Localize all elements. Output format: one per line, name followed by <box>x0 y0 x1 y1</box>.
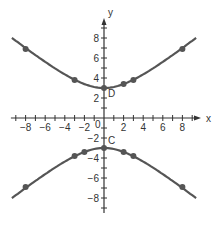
data-point <box>72 77 78 83</box>
data-point <box>179 184 185 190</box>
x-tick-label: 4 <box>140 122 146 133</box>
data-point <box>101 145 107 151</box>
y-axis-arrow-icon <box>102 18 107 25</box>
data-point <box>81 149 87 155</box>
x-tick-label: −6 <box>39 122 51 133</box>
y-tick-label: 8 <box>93 33 99 44</box>
hyperbola-chart: −8−6−4−22468−8−6−4−224680xyDC <box>0 0 219 225</box>
data-point <box>23 184 29 190</box>
x-tick-label: 2 <box>121 122 127 133</box>
point-label-c: C <box>108 135 115 146</box>
data-point <box>23 46 29 52</box>
y-tick-label: 6 <box>93 53 99 64</box>
x-tick-label: 8 <box>180 122 186 133</box>
y-tick-label: 2 <box>93 93 99 104</box>
y-axis-label: y <box>108 7 113 18</box>
y-tick-label: −8 <box>88 193 100 204</box>
x-tick-label: 6 <box>160 122 166 133</box>
x-tick-label: −8 <box>20 122 32 133</box>
data-point <box>130 153 136 159</box>
data-point <box>72 153 78 159</box>
y-tick-label: 4 <box>93 73 99 84</box>
y-tick-label: −4 <box>88 153 100 164</box>
data-point <box>101 85 107 91</box>
x-tick-label: −4 <box>59 122 71 133</box>
data-point <box>130 77 136 83</box>
y-tick-label: −2 <box>88 133 100 144</box>
axes <box>11 18 201 213</box>
data-point <box>121 149 127 155</box>
y-tick-label: −6 <box>88 173 100 184</box>
x-axis-label: x <box>206 113 211 124</box>
origin-label: 0 <box>95 119 101 130</box>
x-axis-arrow-icon <box>194 116 201 121</box>
x-tick-label: −2 <box>79 122 91 133</box>
data-point <box>179 46 185 52</box>
point-label-d: D <box>108 88 115 99</box>
data-point <box>121 81 127 87</box>
labels: −8−6−4−22468−8−6−4−224680xyDC <box>20 7 211 204</box>
